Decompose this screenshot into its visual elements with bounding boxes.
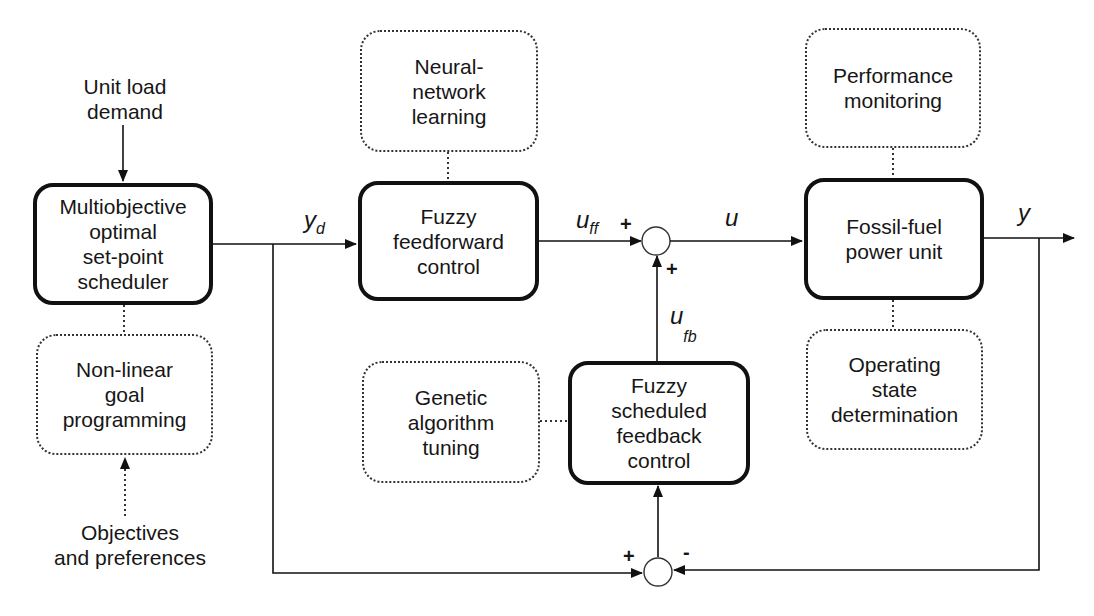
signal-sub: ff [589, 220, 598, 237]
fuzzy-feedforward-block: Fuzzy feedforward control [358, 181, 539, 301]
block-line: goal [105, 382, 145, 407]
signal-sub: fb [683, 328, 696, 345]
block-line: scheduler [77, 269, 168, 294]
genetic-algorithm-block: Genetic algorithm tuning [362, 361, 540, 483]
block-line: tuning [422, 435, 479, 460]
block-line: learning [412, 104, 487, 129]
block-line: Genetic [415, 385, 487, 410]
block-line: programming [63, 407, 187, 432]
block-line: Operating [848, 352, 940, 377]
block-line: feedforward [393, 229, 504, 254]
block-line: network [412, 79, 486, 104]
signal-y: y [1018, 199, 1030, 227]
signal-u: u [725, 204, 738, 232]
fuzzy-feedback-block: Fuzzy scheduled feedback control [568, 361, 750, 485]
sum2-left-sign: + [623, 545, 635, 568]
fossil-fuel-plant-block: Fossil-fuel power unit [804, 178, 984, 300]
signal-yd: yd [304, 206, 325, 238]
block-line: Fuzzy [420, 204, 476, 229]
block-line: Neural- [415, 54, 484, 79]
signal-ufb: ufb [670, 302, 697, 346]
block-line: monitoring [844, 88, 942, 113]
block-line: Fuzzy [631, 373, 687, 398]
neural-network-block: Neural- network learning [360, 30, 538, 152]
nonlinear-goal-programming-block: Non-linear goal programming [36, 334, 213, 455]
signal-main: y [304, 206, 316, 233]
label-line: demand [60, 99, 190, 124]
block-line: Performance [833, 63, 953, 88]
signal-main: u [576, 206, 589, 233]
block-line: Fossil-fuel [846, 214, 942, 239]
block-line: scheduled [611, 398, 707, 423]
block-line: set-point [83, 244, 164, 269]
objectives-label: Objectives and preferences [30, 520, 230, 570]
block-line: control [627, 448, 690, 473]
label-line: Objectives [30, 520, 230, 545]
block-line: determination [831, 402, 958, 427]
sum1-left-sign: + [620, 213, 632, 236]
block-line: power unit [846, 239, 943, 264]
signal-main: u [670, 302, 683, 329]
signal-sub: d [316, 220, 325, 237]
block-line: state [872, 377, 918, 402]
performance-monitoring-block: Performance monitoring [805, 28, 981, 148]
signal-main: u [725, 204, 738, 231]
block-line: optimal [89, 219, 157, 244]
label-line: Unit load [60, 74, 190, 99]
sum1-bottom-sign: + [666, 258, 678, 281]
label-line: and preferences [30, 545, 230, 570]
signal-uff: uff [576, 206, 598, 238]
sum2-right-sign: - [683, 541, 690, 564]
block-line: feedback [616, 423, 701, 448]
block-line: Multiobjective [59, 194, 186, 219]
operating-state-block: Operating state determination [806, 329, 983, 450]
scheduler-block: Multiobjective optimal set-point schedul… [33, 183, 213, 305]
block-line: control [417, 254, 480, 279]
signal-main: y [1018, 199, 1030, 226]
block-line: Non-linear [76, 357, 173, 382]
unit-load-demand-label: Unit load demand [60, 74, 190, 124]
block-line: algorithm [408, 410, 494, 435]
